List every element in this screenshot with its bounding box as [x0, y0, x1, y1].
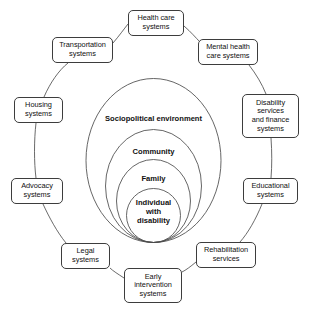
- connector-arc-advocacy-to-housing: [35, 123, 37, 178]
- environment-label-individual: Individual with disability: [136, 199, 171, 225]
- connector-arc-legal-to-advocacy: [43, 204, 66, 243]
- system-node-mental-health-care-systems[interactable]: Mental health care systems: [198, 39, 258, 65]
- system-node-transportation-systems[interactable]: Transportation systems: [52, 37, 113, 63]
- environment-label-family: Family: [141, 175, 165, 184]
- connector-arc-transportation-to-health-care: [113, 24, 128, 43]
- system-node-advocacy-systems[interactable]: Advocacy systems: [11, 178, 63, 204]
- system-node-early-intervention-systems[interactable]: Early intervention systems: [124, 268, 182, 303]
- connector-arc-housing-to-transportation: [44, 63, 68, 97]
- connector-arc-mental-health-to-disability-services: [249, 65, 266, 94]
- system-node-health-care-systems[interactable]: Health care systems: [128, 10, 184, 36]
- system-node-rehabilitation-services[interactable]: Rehabilitation services: [196, 242, 256, 268]
- environment-label-community: Community: [133, 148, 175, 157]
- connector-arc-health-care-to-mental-health: [184, 26, 200, 42]
- system-node-legal-systems[interactable]: Legal systems: [61, 243, 110, 269]
- connector-arc-early-intervention-to-legal: [110, 268, 124, 278]
- system-node-disability-services-and-finance-systems[interactable]: Disability services and finance systems: [242, 94, 299, 138]
- connector-arc-disability-services-to-educational: [271, 138, 272, 178]
- system-node-housing-systems[interactable]: Housing systems: [14, 97, 63, 123]
- connector-arc-rehabilitation-to-early-intervention: [182, 262, 196, 272]
- system-node-educational-systems[interactable]: Educational systems: [243, 178, 298, 204]
- connector-arc-educational-to-rehabilitation: [240, 204, 262, 242]
- diagram-canvas: Sociopolitical environmentCommunityFamil…: [0, 0, 311, 311]
- environment-label-sociopolitical: Sociopolitical environment: [105, 115, 202, 124]
